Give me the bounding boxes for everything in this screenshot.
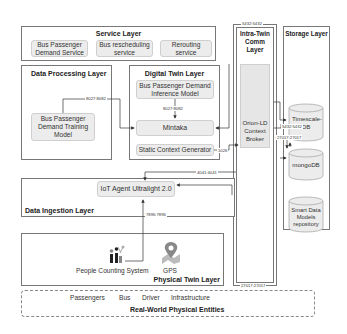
connector-lines — [0, 0, 347, 334]
port-static-context: 1026 — [217, 148, 228, 153]
port-broker-timescale: 5432:5432 — [281, 124, 303, 129]
port-iot-sensors: 7896:7896 — [145, 212, 167, 217]
port-comm-bottom: 27017:27017 — [240, 283, 266, 288]
port-broker-iot-agent: 4041:4041 — [196, 170, 218, 175]
port-broker-mongo: 27017:27017 — [276, 135, 302, 140]
port-comm-top: 5432:5432 — [241, 21, 263, 26]
port-training-mintaka: 8027:8082 — [85, 96, 107, 101]
port-inference-mintaka: 8027:8082 — [162, 106, 184, 111]
